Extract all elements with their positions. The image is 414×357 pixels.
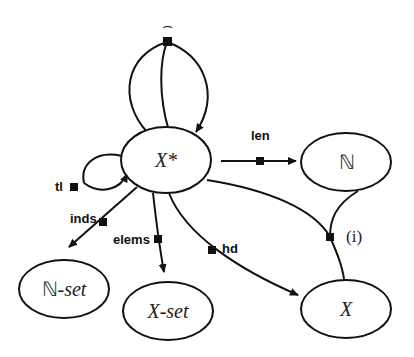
node-nat-label: ℕ [339,151,355,173]
junction-len[interactable] [256,157,264,165]
len-label: len [251,128,270,143]
junction-tl[interactable] [70,183,78,191]
node-natset-label-prefix: ℕ [42,278,58,300]
edge-tl: tl [55,155,127,194]
edge-hd: hd [169,193,298,295]
junction-index[interactable] [326,233,334,241]
edge-conc-input-2 [161,42,169,131]
node-xstar[interactable]: X* [121,127,211,193]
node-x[interactable]: X [301,280,391,338]
diagram-canvas: ⌢ tl len inds elems hd (i) [0,0,414,357]
node-xstar-label: X* [154,149,177,171]
node-nat[interactable]: ℕ [301,133,391,191]
edge-concatenation: ⌢ [129,16,207,132]
edge-conc-output [167,42,208,132]
edge-index-input-xstar [207,180,330,237]
tl-label: tl [55,179,63,194]
inds-label: inds [70,211,97,226]
conc-label: ⌢ [162,16,173,35]
hd-label: hd [222,241,238,256]
edge-elems: elems [113,193,164,272]
node-xset-label: X-set [146,300,189,322]
edge-index: (i) [207,180,362,288]
junction-inds[interactable] [99,218,107,226]
node-xset[interactable]: X-set [123,282,213,340]
index-label: (i) [346,227,362,246]
edge-elems-line [153,193,164,272]
node-natset-label-suffix: -set [58,278,87,300]
node-natset[interactable]: ℕ-set [19,260,109,318]
junction-hd[interactable] [208,246,216,254]
edge-tl-output [84,174,127,190]
junction-conc[interactable] [163,37,172,46]
edge-len: len [221,128,296,165]
junction-elems[interactable] [154,235,162,243]
node-x-label: X [339,298,353,320]
edge-tl-input [83,155,122,183]
elems-label: elems [113,232,150,247]
node-natset-label: ℕ-set [42,278,87,300]
